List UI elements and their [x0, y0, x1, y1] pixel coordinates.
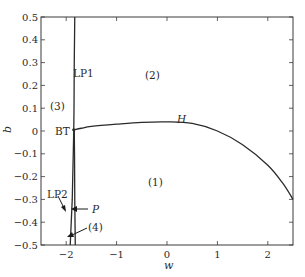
plot-frame [41, 17, 293, 245]
bifurcation-chart: −2−1012 0.50.40.30.20.10−0.1−0.2−0.3−0.4… [0, 0, 305, 277]
y-tick-label: −0.3 [14, 194, 38, 205]
label-region4: (4) [88, 221, 103, 233]
curve-h [74, 122, 293, 200]
y-tick-label: 0.2 [22, 80, 38, 91]
y-tick-label: 0.1 [22, 103, 38, 114]
y-tick-label: 0.4 [22, 34, 38, 45]
y-tick-label: 0.3 [22, 57, 38, 68]
x-tick-label: 2 [265, 249, 271, 260]
x-tick-label: 1 [214, 249, 220, 260]
y-tick-label: −0.2 [14, 171, 38, 182]
y-axis-label: b [1, 126, 14, 133]
curve-lp2 [70, 130, 74, 245]
label-h: H [176, 113, 187, 125]
curve-p [74, 130, 75, 245]
y-tick-label: 0.5 [22, 12, 38, 23]
label-p: P [91, 203, 100, 215]
y-tick-label: −0.5 [14, 240, 38, 251]
label-region1: (1) [148, 176, 163, 188]
lp2-arrowhead-icon [61, 205, 66, 212]
label-bt: BT [55, 125, 70, 137]
x-tick-label: −1 [109, 249, 124, 260]
y-tick-label: 0 [32, 126, 38, 137]
curves [70, 17, 293, 245]
y-tick-label: −0.4 [14, 217, 38, 228]
label-lp2: LP2 [47, 188, 68, 200]
x-tick-label: −2 [59, 249, 74, 260]
annotation-arrows [58, 196, 88, 237]
bt-point-marker [72, 128, 75, 131]
label-region3: (3) [50, 100, 65, 112]
x-axis-label: w [164, 259, 174, 272]
label-region2: (2) [145, 69, 160, 81]
label-lp1: LP1 [73, 67, 94, 79]
y-tick-label: −0.1 [14, 148, 38, 159]
